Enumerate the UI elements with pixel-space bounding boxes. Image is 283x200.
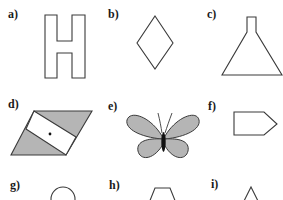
label-g: g): [10, 179, 20, 191]
trapezoid-icon: [149, 188, 176, 200]
label-b: b): [108, 8, 119, 20]
triangle-icon: [243, 187, 259, 200]
figure-sheet: a) b) c) d) e) f) g) h) i): [0, 0, 283, 200]
label-f: f): [208, 100, 216, 112]
center-dot-icon: [49, 133, 52, 136]
butterfly-icon: [127, 113, 199, 158]
flask-icon: [222, 17, 282, 75]
parallelogram-icon: [11, 111, 92, 155]
label-c: c): [207, 8, 216, 20]
pentagon-arrow-icon: [234, 112, 277, 135]
label-i: i): [211, 178, 218, 190]
figures-drawing: [0, 0, 283, 200]
label-d: d): [8, 98, 19, 110]
diamond-icon: [137, 16, 173, 69]
letter-h-icon: [45, 15, 85, 78]
label-e: e): [108, 100, 117, 112]
label-a: a): [8, 8, 18, 20]
label-h: h): [109, 179, 120, 191]
circle-icon: [51, 187, 75, 200]
